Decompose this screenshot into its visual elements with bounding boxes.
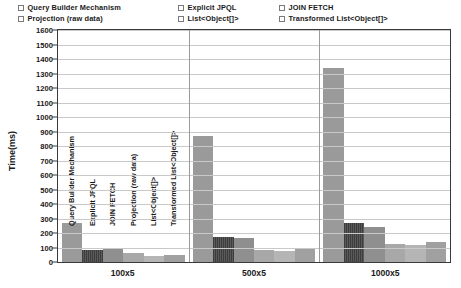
gridline xyxy=(58,190,450,191)
legend-item-list-object-array: List<Object[]> xyxy=(178,13,270,24)
y-axis-tick-label: 1600 xyxy=(36,26,53,35)
legend-swatch-icon xyxy=(178,5,184,11)
gridline xyxy=(58,103,450,104)
bar-chart: Query Builder Mechanism Explicit JPQL JO… xyxy=(0,0,461,288)
legend-item-transformed-list-object-array: Transformed List<Object[]> xyxy=(279,13,388,24)
chart-legend: Query Builder Mechanism Explicit JPQL JO… xyxy=(18,2,450,24)
legend-label: Query Builder Mechanism xyxy=(28,3,121,13)
legend-label: Explicit JPQL xyxy=(188,3,237,13)
y-axis-tick-label: 1100 xyxy=(37,98,53,107)
bar-fill xyxy=(193,136,213,262)
y-axis-tick-label: 1000 xyxy=(36,113,53,122)
legend-label: Transformed List<Object[]> xyxy=(289,14,388,24)
legend-item-explicit-jpql: Explicit JPQL xyxy=(178,2,270,13)
group-separator xyxy=(319,30,320,262)
bar-fill xyxy=(344,223,364,262)
gridline xyxy=(58,117,450,118)
bar-fill xyxy=(295,249,315,262)
legend-label: JOIN FETCH xyxy=(289,3,334,13)
legend-swatch-icon xyxy=(18,5,24,11)
bar-fill xyxy=(274,251,294,262)
bar-fill xyxy=(426,242,446,262)
x-axis: 100x5500x51000x5 xyxy=(57,264,451,284)
gridline xyxy=(58,146,450,147)
x-axis-group-label: 1000x5 xyxy=(320,264,451,284)
legend-swatch-icon xyxy=(18,16,24,22)
bar-fill xyxy=(62,223,82,262)
gridline xyxy=(58,132,450,133)
group-separator xyxy=(189,30,190,262)
bar-fill xyxy=(254,250,274,262)
legend-swatch-icon xyxy=(279,16,285,22)
bar-fill xyxy=(82,250,102,262)
y-axis-title: Time(ms) xyxy=(7,109,17,193)
x-axis-group-label: 100x5 xyxy=(57,264,188,284)
x-axis-group-label: 500x5 xyxy=(188,264,319,284)
gridline xyxy=(58,45,450,46)
gridline xyxy=(58,59,450,60)
y-axis-tick-label: 1300 xyxy=(36,69,53,78)
legend-swatch-icon xyxy=(279,5,285,11)
bar-fill xyxy=(144,256,164,262)
y-axis: Time(ms) 0100200300400500600700800900100… xyxy=(0,29,57,263)
y-axis-tick-label: 1500 xyxy=(36,40,53,49)
legend-item-join-fetch: JOIN FETCH xyxy=(279,2,333,13)
legend-item-query-builder-mechanism: Query Builder Mechanism xyxy=(18,2,169,13)
gridline xyxy=(58,30,450,31)
gridline xyxy=(58,175,450,176)
bar-fill xyxy=(123,253,143,262)
legend-swatch-icon xyxy=(178,16,184,22)
legend-label: List<Object[]> xyxy=(188,14,239,24)
gridline xyxy=(58,204,450,205)
plot-area: Query Builder MechanismExplicit JPQLJOIN… xyxy=(57,29,451,263)
gridline xyxy=(58,219,450,220)
legend-item-projection-raw-data: Projection (raw data) xyxy=(18,13,169,24)
y-axis-tick-label: 1200 xyxy=(36,84,53,93)
bar-fill xyxy=(103,248,123,262)
gridline xyxy=(58,233,450,234)
gridline xyxy=(58,88,450,89)
y-axis-tick-label: 1400 xyxy=(36,55,53,64)
bar-fill xyxy=(234,238,254,262)
gridline xyxy=(58,161,450,162)
gridline xyxy=(58,248,450,249)
gridline xyxy=(58,74,450,75)
bar-fill xyxy=(164,255,184,262)
legend-label: Projection (raw data) xyxy=(28,14,103,24)
bar-fill xyxy=(213,237,233,262)
